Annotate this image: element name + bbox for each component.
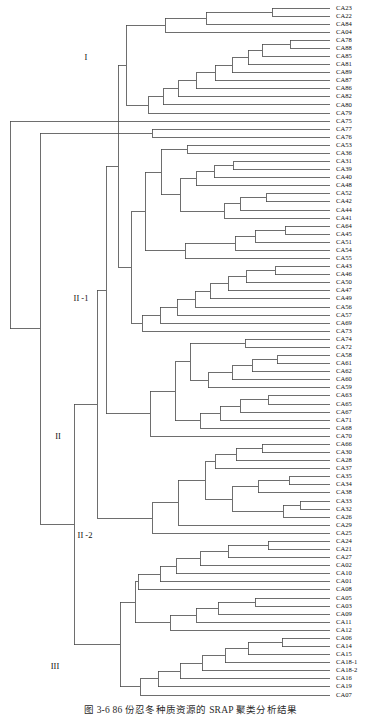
leaf-label: CA70 <box>336 432 352 439</box>
dendrogram-leaf-labels: CA23CA22CA84CA04CA78CA88CA85CA81CA89CA87… <box>336 4 357 698</box>
cluster-label: III <box>51 661 60 671</box>
leaf-label: CA65 <box>336 400 352 407</box>
leaf-label: CA18-2 <box>336 666 357 673</box>
branch <box>152 129 330 137</box>
leaf-label: CA78 <box>336 36 352 43</box>
leaf-label: CA75 <box>336 117 352 124</box>
branch <box>170 615 330 630</box>
branch <box>248 642 330 654</box>
leaf-label: CA45 <box>336 230 352 237</box>
leaf-label: CA46 <box>336 270 352 277</box>
branch <box>135 582 170 623</box>
branch <box>196 608 330 622</box>
branch <box>228 545 330 557</box>
branch <box>120 602 140 687</box>
branch <box>208 373 330 388</box>
branch <box>225 649 330 663</box>
leaf-label: CA49 <box>336 294 352 301</box>
branch <box>285 226 330 234</box>
leaf-label: CA08 <box>336 585 352 592</box>
leaf-label: CA22 <box>336 12 352 19</box>
branch <box>290 40 330 48</box>
branch <box>150 391 330 436</box>
leaf-label: CA74 <box>336 335 352 342</box>
leaf-label: CA14 <box>336 642 352 649</box>
leaf-label: CA26 <box>336 513 352 520</box>
branch <box>106 166 150 414</box>
branch <box>233 162 330 170</box>
figure-caption: 图 3-6 86 份忍冬种质资源的 SRAP 聚类分析结果 <box>0 702 381 720</box>
cluster-label: II -2 <box>78 530 93 540</box>
branch <box>289 477 330 485</box>
branch <box>220 406 330 420</box>
leaf-label: CA69 <box>336 319 352 326</box>
branch <box>152 503 330 534</box>
leaf-label: CA47 <box>336 286 352 293</box>
branch <box>266 194 330 202</box>
branch <box>245 339 330 347</box>
branch <box>277 356 330 364</box>
leaf-label: CA18-1 <box>336 658 357 665</box>
leaf-label: CA54 <box>336 246 352 253</box>
branch <box>118 65 131 267</box>
leaf-label: CA89 <box>336 68 352 75</box>
branch <box>165 18 330 32</box>
leaf-label: CA40 <box>336 173 352 180</box>
branch <box>255 230 330 242</box>
leaf-label: CA72 <box>336 343 352 350</box>
leaf-label: CA59 <box>336 383 352 390</box>
leaf-label: CA85 <box>336 52 352 59</box>
leaf-label: CA06 <box>336 634 352 641</box>
leaf-label: CA48 <box>336 181 352 188</box>
leaf-label: CA76 <box>336 133 352 140</box>
dendrogram-figure: CA23CA22CA84CA04CA78CA88CA85CA81CA89CA87… <box>0 0 381 700</box>
branch <box>232 366 330 380</box>
branch <box>145 172 185 251</box>
leaf-label: CA71 <box>336 416 352 423</box>
leaf-label: CA21 <box>336 545 352 552</box>
leaf-label: CA53 <box>336 141 352 148</box>
leaf-label: CA62 <box>336 367 352 374</box>
leaf-label: CA80 <box>336 101 352 108</box>
leaf-label: CA07 <box>336 691 352 698</box>
leaf-label: CA79 <box>336 109 352 116</box>
leaf-label: CA63 <box>336 391 352 398</box>
leaf-label: CA82 <box>336 92 352 99</box>
leaf-label: CA29 <box>336 521 352 528</box>
leaf-label: CA24 <box>336 537 352 544</box>
leaf-label: CA03 <box>336 602 352 609</box>
branch <box>205 462 232 499</box>
leaf-label: CA36 <box>336 149 352 156</box>
cluster-label: I <box>85 52 88 62</box>
leaf-label: CA86 <box>336 84 352 91</box>
leaf-label: CA32 <box>336 505 352 512</box>
leaf-label: CA33 <box>336 497 352 504</box>
branch <box>232 58 330 73</box>
branch <box>252 360 330 372</box>
leaf-label: CA77 <box>336 125 352 132</box>
branch <box>268 541 330 549</box>
branch <box>200 552 330 566</box>
branch <box>206 12 330 24</box>
leaf-label: CA60 <box>336 375 352 382</box>
leaf-label: CA57 <box>336 311 352 318</box>
branch <box>268 396 330 404</box>
branch <box>272 8 330 16</box>
leaf-label: CA11 <box>336 618 352 625</box>
dendrogram-cluster-labels: IIIII -1II -2III <box>51 52 93 671</box>
cluster-label: II -1 <box>74 293 89 303</box>
leaf-label: CA28 <box>336 456 352 463</box>
branch <box>176 559 330 574</box>
branch <box>300 501 330 509</box>
branch <box>202 656 330 671</box>
leaf-label: CA31 <box>336 157 352 164</box>
leaf-label: CA23 <box>336 4 352 11</box>
dendrogram-branches <box>10 8 330 695</box>
leaf-label: CA19 <box>336 682 352 689</box>
leaf-label: CA44 <box>336 206 352 213</box>
branch <box>262 444 330 452</box>
branch <box>283 505 330 517</box>
branch <box>131 212 145 324</box>
branch <box>190 343 245 380</box>
branch <box>258 481 330 493</box>
